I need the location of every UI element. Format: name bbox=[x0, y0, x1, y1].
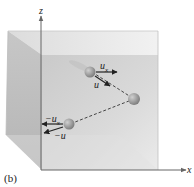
z-axis-label: z bbox=[39, 6, 43, 16]
neg-u-label: −u bbox=[54, 131, 66, 141]
figure-caption: (b) bbox=[4, 172, 17, 184]
gas-molecule-box-diagram bbox=[0, 0, 194, 187]
molecule-incoming bbox=[85, 67, 96, 78]
neg-ux-label: −ux bbox=[45, 114, 60, 127]
molecule-rebound bbox=[64, 119, 75, 130]
ux-label: ux bbox=[100, 61, 108, 74]
molecule-collision bbox=[128, 93, 140, 105]
u-label: u bbox=[94, 80, 99, 90]
x-axis-label: x bbox=[187, 165, 191, 175]
